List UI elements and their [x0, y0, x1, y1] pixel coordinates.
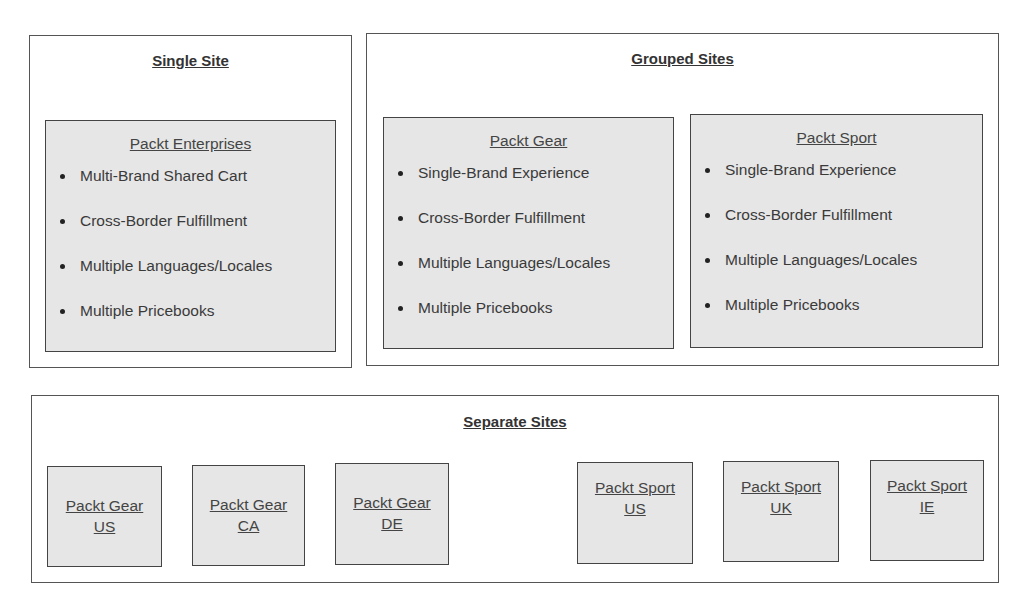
- site-name: Packt Sport: [871, 475, 983, 496]
- separate-sites-frame: Separate Sites: [31, 395, 999, 583]
- list-item: Multiple Languages/Locales: [398, 252, 673, 297]
- site-name: Packt Sport: [578, 477, 692, 498]
- single-site-frame: Single Site Packt Enterprises Multi-Bran…: [29, 35, 352, 368]
- site-region: DE: [336, 513, 448, 534]
- single-site-title: Single Site: [30, 52, 351, 69]
- feature-list: Multi-Brand Shared Cart Cross-Border Ful…: [46, 165, 335, 345]
- feature-list: Single-Brand Experience Cross-Border Ful…: [691, 159, 982, 339]
- list-item: Cross-Border Fulfillment: [705, 204, 982, 249]
- list-item: Multiple Pricebooks: [705, 294, 982, 339]
- item-label: Cross-Border Fulfillment: [80, 212, 247, 229]
- site-region: IE: [871, 496, 983, 517]
- panel-title: Packt Enterprises: [46, 135, 335, 153]
- site-name: Packt Sport: [724, 476, 838, 497]
- site-region: US: [578, 498, 692, 519]
- list-item: Multiple Languages/Locales: [705, 249, 982, 294]
- bullet-icon: [60, 309, 65, 314]
- list-item: Single-Brand Experience: [398, 162, 673, 207]
- site-box-packt-gear-ca: Packt Gear CA: [192, 465, 305, 566]
- bullet-icon: [60, 264, 65, 269]
- panel-title: Packt Gear: [384, 132, 673, 150]
- site-box-packt-gear-us: Packt Gear US: [47, 466, 162, 567]
- item-label: Multiple Languages/Locales: [725, 251, 917, 268]
- packt-gear-panel: Packt Gear Single-Brand Experience Cross…: [383, 117, 674, 349]
- packt-sport-panel: Packt Sport Single-Brand Experience Cros…: [690, 114, 983, 348]
- bullet-icon: [398, 216, 403, 221]
- site-name: Packt Gear: [336, 492, 448, 513]
- bullet-icon: [705, 258, 710, 263]
- bullet-icon: [60, 174, 65, 179]
- bullet-icon: [705, 213, 710, 218]
- bullet-icon: [705, 303, 710, 308]
- bullet-icon: [398, 306, 403, 311]
- item-label: Multiple Pricebooks: [80, 302, 214, 319]
- item-label: Multi-Brand Shared Cart: [80, 167, 247, 184]
- site-region: US: [48, 516, 161, 537]
- item-label: Multiple Languages/Locales: [418, 254, 610, 271]
- list-item: Cross-Border Fulfillment: [60, 210, 335, 255]
- item-label: Cross-Border Fulfillment: [418, 209, 585, 226]
- site-box-packt-sport-ie: Packt Sport IE: [870, 460, 984, 561]
- site-region: CA: [193, 515, 304, 536]
- item-label: Multiple Pricebooks: [418, 299, 552, 316]
- item-label: Single-Brand Experience: [725, 161, 896, 178]
- site-name: Packt Gear: [193, 494, 304, 515]
- site-region: UK: [724, 497, 838, 518]
- list-item: Multiple Languages/Locales: [60, 255, 335, 300]
- list-item: Cross-Border Fulfillment: [398, 207, 673, 252]
- grouped-sites-title: Grouped Sites: [367, 50, 998, 67]
- list-item: Multi-Brand Shared Cart: [60, 165, 335, 210]
- item-label: Cross-Border Fulfillment: [725, 206, 892, 223]
- bullet-icon: [705, 168, 710, 173]
- packt-enterprises-panel: Packt Enterprises Multi-Brand Shared Car…: [45, 120, 336, 352]
- list-item: Single-Brand Experience: [705, 159, 982, 204]
- list-item: Multiple Pricebooks: [398, 297, 673, 342]
- separate-sites-title: Separate Sites: [32, 413, 998, 430]
- item-label: Single-Brand Experience: [418, 164, 589, 181]
- site-name: Packt Gear: [48, 495, 161, 516]
- panel-title: Packt Sport: [691, 129, 982, 147]
- site-box-packt-sport-uk: Packt Sport UK: [723, 461, 839, 562]
- list-item: Multiple Pricebooks: [60, 300, 335, 345]
- site-box-packt-sport-us: Packt Sport US: [577, 462, 693, 564]
- site-box-packt-gear-de: Packt Gear DE: [335, 463, 449, 565]
- bullet-icon: [398, 261, 403, 266]
- feature-list: Single-Brand Experience Cross-Border Ful…: [384, 162, 673, 342]
- bullet-icon: [398, 171, 403, 176]
- item-label: Multiple Pricebooks: [725, 296, 859, 313]
- grouped-sites-frame: Grouped Sites Packt Gear Single-Brand Ex…: [366, 33, 999, 366]
- bullet-icon: [60, 219, 65, 224]
- item-label: Multiple Languages/Locales: [80, 257, 272, 274]
